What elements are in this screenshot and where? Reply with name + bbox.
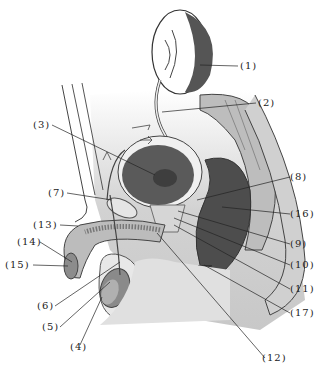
label-15: (15) xyxy=(5,259,30,271)
label-12: (12) xyxy=(262,352,287,364)
label-11: (11) xyxy=(290,283,315,295)
label-9: (9) xyxy=(290,238,307,250)
label-16: (16) xyxy=(290,208,315,220)
label-8: (8) xyxy=(290,171,307,183)
label-10: (10) xyxy=(290,259,315,271)
label-17: (17) xyxy=(290,307,315,319)
label-5: (5) xyxy=(42,321,59,333)
label-13: (13) xyxy=(33,219,58,231)
label-2: (2) xyxy=(258,97,275,109)
label-3: (3) xyxy=(33,119,50,131)
kidney xyxy=(152,10,213,94)
label-14: (14) xyxy=(17,236,42,248)
label-7: (7) xyxy=(48,187,65,199)
label-1: (1) xyxy=(240,60,257,72)
label-6: (6) xyxy=(37,300,54,312)
label-4: (4) xyxy=(70,341,87,353)
